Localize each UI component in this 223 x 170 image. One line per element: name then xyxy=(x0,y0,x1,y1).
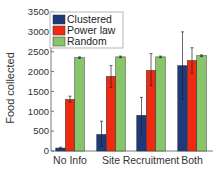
bar-chart: 0500100015002000250030003500No InfoSiteR… xyxy=(0,0,223,170)
x-tick-label: No Info xyxy=(53,154,87,166)
y-tick-label: 2000 xyxy=(28,66,49,77)
y-tick-label: 3500 xyxy=(28,6,49,17)
bars xyxy=(56,32,207,151)
y-tick-label: 0 xyxy=(44,145,49,156)
y-tick-label: 1500 xyxy=(28,86,49,97)
y-tick-label: 500 xyxy=(33,125,49,136)
y-tick-label: 2500 xyxy=(28,46,49,57)
bar-power-law xyxy=(187,60,197,151)
bar-random xyxy=(116,57,126,151)
y-axis-label: Food collected xyxy=(4,52,16,124)
bar-random xyxy=(156,57,166,151)
x-tick-label: Recruitment xyxy=(123,154,180,166)
legend: ClusteredPower lawRandom xyxy=(50,12,123,48)
legend-swatch xyxy=(53,26,65,35)
y-tick-label: 3000 xyxy=(28,26,49,37)
legend-swatch xyxy=(53,37,65,46)
x-tick-label: Both xyxy=(181,154,203,166)
legend-swatch xyxy=(53,15,65,24)
y-tick-label: 1000 xyxy=(28,106,49,117)
bar-power-law xyxy=(65,99,75,151)
bar-random xyxy=(75,58,85,151)
x-tick-label: Site xyxy=(102,154,120,166)
bar-random xyxy=(197,56,207,151)
legend-entry: Random xyxy=(67,35,107,47)
